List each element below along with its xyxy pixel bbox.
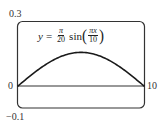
eq-coef-den: 20 bbox=[56, 36, 66, 44]
sine-curve bbox=[18, 52, 145, 86]
eq-arg-den: 10 bbox=[88, 36, 98, 44]
eq-equals: = bbox=[46, 30, 52, 42]
y-max-label: 0.3 bbox=[9, 9, 22, 19]
y-min-label: −0.1 bbox=[6, 112, 24, 122]
eq-open-paren: ( bbox=[82, 27, 87, 44]
equation-label: y = π 20 sin ( πx 10 ) bbox=[38, 27, 104, 44]
eq-lhs: y bbox=[38, 30, 43, 42]
x-min-label: 0 bbox=[8, 81, 13, 91]
plot-svg bbox=[0, 0, 165, 125]
x-max-label: 10 bbox=[147, 81, 157, 91]
eq-argument: πx 10 bbox=[88, 27, 98, 44]
eq-close-paren: ) bbox=[99, 27, 104, 44]
eq-func: sin bbox=[69, 30, 82, 42]
eq-coefficient: π 20 bbox=[56, 27, 66, 44]
